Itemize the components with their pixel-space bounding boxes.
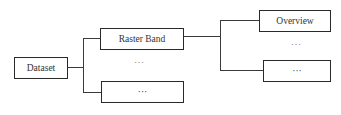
node-dataset-label: Dataset bbox=[27, 63, 56, 73]
edge-dataset-trunk bbox=[68, 67, 84, 68]
node-raster-band: Raster Band bbox=[100, 28, 184, 50]
node-overview: Overview bbox=[259, 10, 331, 32]
node-band-more: ··· bbox=[101, 81, 184, 103]
node-dataset: Dataset bbox=[14, 57, 68, 79]
edge-raster-band-trunk bbox=[184, 36, 221, 37]
edge-raster-band-vertical bbox=[220, 20, 221, 71]
edge-to-overview-more bbox=[220, 70, 264, 71]
overviews-ellipsis: ··· bbox=[291, 40, 302, 49]
edge-dataset-vertical bbox=[83, 38, 84, 93]
node-overview-more-label: ··· bbox=[292, 66, 302, 76]
bands-ellipsis: ··· bbox=[134, 58, 145, 67]
node-band-more-label: ··· bbox=[138, 87, 148, 97]
node-overview-label: Overview bbox=[276, 16, 313, 26]
edge-to-raster-band bbox=[83, 38, 101, 39]
node-raster-band-label: Raster Band bbox=[119, 34, 166, 44]
node-overview-more: ··· bbox=[263, 60, 331, 82]
edge-to-band-more bbox=[83, 92, 101, 93]
edge-to-overview bbox=[220, 20, 260, 21]
